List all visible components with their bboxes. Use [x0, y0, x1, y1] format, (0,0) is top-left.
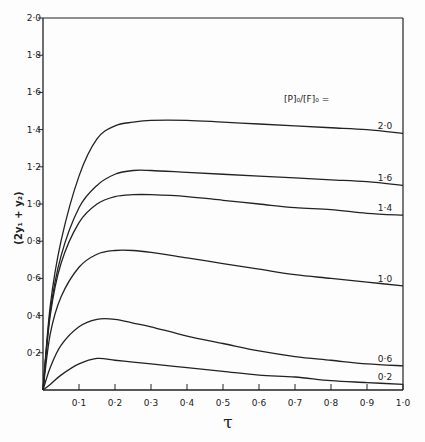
x-axis-title: τ	[223, 412, 232, 432]
y-tick-label: 1·0	[27, 199, 42, 209]
legend-title: [P]₀/[F]₀ =	[284, 94, 329, 104]
x-tick-label: 0·3	[144, 398, 158, 408]
curve-1·0	[43, 250, 403, 390]
y-tick-label: 0·6	[27, 273, 42, 283]
y-tick-label: 2·0	[27, 13, 42, 23]
curve-label: 1·4	[378, 203, 393, 213]
y-tick-label: 1·6	[27, 87, 42, 97]
curves	[43, 120, 403, 390]
curve-2·0	[43, 120, 403, 390]
x-tick-label: 0·8	[324, 398, 339, 408]
x-tick-label: 1·0	[396, 398, 411, 408]
line-chart: 0·10·20·30·40·50·60·70·80·91·00·20·40·60…	[0, 0, 425, 442]
x-tick-label: 0·2	[108, 398, 122, 408]
y-tick-label: 1·4	[27, 125, 42, 135]
curve-1·4	[43, 194, 403, 390]
x-tick-label: 0·7	[288, 398, 302, 408]
y-axis-title: (2y₁ + y₂)	[13, 191, 24, 244]
curve-label: 1·0	[378, 274, 393, 284]
curve-label: 2·0	[378, 121, 393, 131]
y-tick-label: 0·2	[27, 348, 41, 358]
curve-labels: 2·01·61·41·00·60·2	[378, 121, 393, 382]
x-tick-label: 0·1	[72, 398, 86, 408]
curve-0·6	[43, 319, 403, 390]
curve-label: 0·2	[378, 372, 392, 382]
x-tick-label: 0·4	[180, 398, 195, 408]
curve-label: 1·6	[378, 173, 393, 183]
ticks: 0·10·20·30·40·50·60·70·80·91·00·20·40·60…	[27, 13, 411, 408]
x-tick-label: 0·5	[216, 398, 230, 408]
y-tick-label: 0·8	[27, 236, 42, 246]
curve-label: 0·6	[378, 354, 393, 364]
y-tick-label: 0·4	[27, 311, 42, 321]
y-tick-label: 1·8	[27, 50, 42, 60]
y-tick-label: 1·2	[27, 162, 41, 172]
x-tick-label: 0·6	[252, 398, 267, 408]
x-tick-label: 0·9	[360, 398, 375, 408]
